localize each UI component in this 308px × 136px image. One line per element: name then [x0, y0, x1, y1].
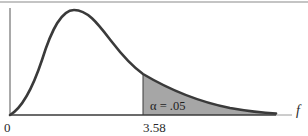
- f-distribution-chart: [0, 0, 308, 136]
- alpha-region-label: α = .05: [150, 100, 185, 113]
- x-tick-critical-value: 3.58: [143, 121, 166, 134]
- x-tick-zero: 0: [4, 121, 11, 134]
- x-axis-label: f: [296, 104, 300, 117]
